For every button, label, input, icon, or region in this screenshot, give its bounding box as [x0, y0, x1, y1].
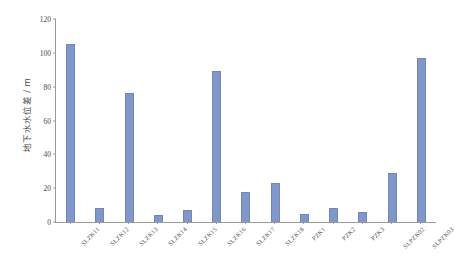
bar-slot — [202, 19, 231, 222]
bar-SLZK14[interactable] — [154, 215, 163, 222]
bar-slot — [261, 19, 290, 222]
bar-slot — [290, 19, 319, 222]
bar-slot — [114, 19, 143, 222]
x-tick-label-SLZK14: SLZK14 — [167, 225, 189, 247]
x-tick-mark — [362, 221, 363, 224]
y-axis-title: 地下水水位差 / m — [18, 0, 34, 230]
x-tick-mark — [70, 221, 71, 224]
x-tick-label-PZK3: PZK3 — [369, 225, 385, 241]
bar-SLZK11[interactable] — [66, 44, 75, 222]
bar-slot — [348, 19, 377, 222]
x-tick-mark — [187, 221, 188, 224]
bar-slot — [56, 19, 85, 222]
x-tick-mark — [420, 221, 421, 224]
x-tick-mark — [391, 221, 392, 224]
x-tick-label-SLZK18: SLZK18 — [284, 225, 306, 247]
bar-slot — [231, 19, 260, 222]
x-tick-label-SLPZK02: SLPZK02 — [402, 225, 426, 249]
y-axis-title-label: 地下水水位差 / m — [20, 78, 32, 153]
bar-SLZK17[interactable] — [241, 192, 250, 222]
bar-SLZK16[interactable] — [212, 71, 221, 222]
bar-SLZK12[interactable] — [95, 208, 104, 222]
x-tick-label-SLZK15: SLZK15 — [196, 225, 218, 247]
x-tick-mark — [128, 221, 129, 224]
bar-slot — [144, 19, 173, 222]
bars-layer — [56, 19, 436, 222]
bar-SLPZK02[interactable] — [388, 173, 397, 222]
x-tick-label-SLPZK03: SLPZK03 — [431, 225, 455, 249]
x-tick-mark — [303, 221, 304, 224]
x-tick-label-SLZK13: SLZK13 — [138, 225, 160, 247]
x-tick-mark — [274, 221, 275, 224]
bar-slot — [319, 19, 348, 222]
x-axis-labels: SLZK11SLZK12SLZK13SLZK14SLZK15SLZK16SLZK… — [55, 224, 435, 272]
bar-PZK1[interactable] — [300, 214, 309, 222]
x-tick-label-PZK1: PZK1 — [311, 225, 327, 241]
bar-slot — [173, 19, 202, 222]
bar-slot — [407, 19, 436, 222]
x-tick-label-SLZK17: SLZK17 — [254, 225, 276, 247]
x-tick-label-SLZK11: SLZK11 — [79, 225, 100, 246]
x-tick-mark — [99, 221, 100, 224]
x-tick-mark — [333, 221, 334, 224]
plot-area: 020406080100120 — [55, 19, 436, 223]
bar-SLPZK03[interactable] — [417, 58, 426, 222]
x-tick-label-SLZK16: SLZK16 — [225, 225, 247, 247]
x-tick-label-PZK2: PZK2 — [340, 225, 356, 241]
bar-SLZK18[interactable] — [271, 183, 280, 222]
x-tick-mark — [245, 221, 246, 224]
bar-SLZK13[interactable] — [125, 93, 134, 222]
bar-slot — [378, 19, 407, 222]
bar-SLZK15[interactable] — [183, 210, 192, 222]
x-tick-label-SLZK12: SLZK12 — [108, 225, 130, 247]
bar-slot — [85, 19, 114, 222]
x-tick-mark — [157, 221, 158, 224]
bar-PZK2[interactable] — [329, 208, 338, 222]
x-tick-mark — [216, 221, 217, 224]
